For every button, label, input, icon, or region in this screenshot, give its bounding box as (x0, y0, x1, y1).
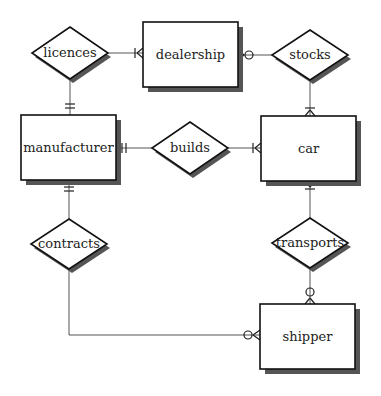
entity-label: shipper (283, 329, 334, 344)
entity-car[interactable]: car (261, 116, 361, 186)
relationship-label: contracts (38, 236, 100, 251)
edge-contracts-shipper[interactable] (69, 269, 260, 335)
entity-label: manufacturer (23, 140, 114, 155)
relationship-label: stocks (289, 47, 331, 62)
er-diagram: dealership manufacturer car shipper lice… (0, 0, 381, 396)
relationship-builds[interactable]: builds (152, 122, 231, 178)
relationship-label: licences (43, 45, 96, 60)
relationship-stocks[interactable]: stocks (272, 30, 351, 84)
edges (69, 53, 310, 335)
relationship-licences[interactable]: licences (32, 27, 111, 83)
relationship-transports[interactable]: transports (272, 218, 351, 272)
entity-label: dealership (156, 47, 225, 62)
relationship-label: transports (276, 235, 345, 250)
relationship-label: builds (170, 140, 210, 155)
entity-label: car (298, 141, 320, 156)
entity-manufacturer[interactable]: manufacturer (21, 115, 121, 185)
relationship-contracts[interactable]: contracts (31, 219, 110, 273)
entity-dealership[interactable]: dealership (143, 22, 243, 92)
entity-shipper[interactable]: shipper (260, 304, 360, 374)
